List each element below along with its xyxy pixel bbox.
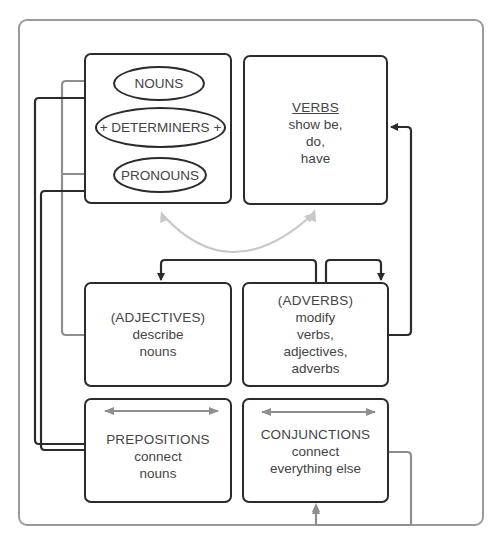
adverbs-to-verbs-arrow — [388, 127, 411, 335]
conjunctions-title: CONJUNCTIONS — [261, 426, 371, 443]
adverbs-line-2: verbs, — [297, 326, 334, 343]
verbs-line-1: show be, — [288, 116, 342, 133]
adjectives-line-2: nouns — [140, 343, 177, 360]
pronouns-oval: PRONOUNS — [113, 157, 207, 193]
prepositions-line-2: nouns — [140, 465, 177, 482]
figure-caption-cut-off — [8, 540, 488, 546]
pronouns-label: PRONOUNS — [121, 168, 199, 183]
adverbs-to-adjectives-arrow — [161, 260, 316, 282]
conjunctions-line-2: everything else — [270, 460, 361, 477]
verbs-box: VERBS show be, do, have — [243, 55, 388, 205]
verbs-title: VERBS — [292, 99, 339, 116]
determiners-label: + DETERMINERS + — [100, 120, 222, 135]
verbs-line-2: do, — [306, 133, 325, 150]
prepositions-title: PREPOSITIONS — [106, 431, 210, 448]
noun-verb-curve-arrow — [162, 214, 313, 252]
prepositions-line-1: connect — [134, 448, 181, 465]
adverbs-title: (ADVERBS) — [278, 292, 353, 309]
adverbs-box: (ADVERBS) modify verbs, adjectives, adve… — [242, 282, 389, 387]
adjectives-line-1: describe — [132, 326, 183, 343]
adjectives-title: (ADJECTIVES) — [111, 309, 206, 326]
verbs-line-3: have — [301, 150, 330, 167]
conjunctions-line-1: connect — [292, 443, 339, 460]
nouns-oval: NOUNS — [113, 66, 205, 101]
adverbs-line-1: modify — [296, 309, 336, 326]
determiners-oval: + DETERMINERS + — [95, 107, 226, 148]
prepositions-box: PREPOSITIONS connect nouns — [84, 398, 232, 503]
adverbs-line-4: adverbs — [291, 360, 339, 377]
adverbs-self-arrow — [326, 260, 381, 282]
adverbs-line-3: adjectives, — [284, 343, 348, 360]
conjunctions-box: CONJUNCTIONS connect everything else — [242, 398, 389, 503]
nouns-label: NOUNS — [135, 76, 184, 91]
adjectives-box: (ADJECTIVES) describe nouns — [84, 282, 232, 387]
